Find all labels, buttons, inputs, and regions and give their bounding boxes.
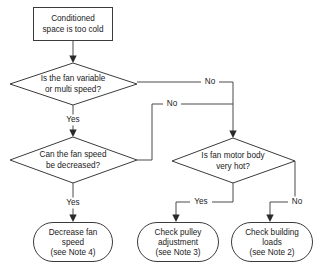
node-start-line-1: Conditioned: [51, 14, 95, 23]
node-start[interactable]: Conditioned space is too cold: [34, 8, 113, 41]
edge-label-text: Yes: [66, 198, 79, 207]
flowchart-svg: Conditioned space is too cold Is the fan…: [0, 0, 324, 274]
edge-label-fan-speed-yes: Yes: [62, 198, 84, 209]
node-terminal-decrease-fan-speed[interactable]: Decrease fan speed (see Note 4): [34, 223, 113, 262]
node-terminal-check-building-loads[interactable]: Check building loads (see Note 2): [232, 223, 313, 262]
decision-diamond-shape: [172, 138, 295, 183]
arrowhead-icon: [69, 215, 76, 223]
node-check-building-loads-line-1: Check building: [245, 228, 299, 237]
node-decrease-fan-speed-line-2: speed: [62, 238, 85, 247]
edge-line: [270, 161, 295, 217]
node-decrease-fan-speed-line-1: Decrease fan: [49, 228, 98, 237]
decision-diamond-shape: [10, 137, 137, 183]
node-decision-motor-hot[interactable]: Is fan motor body very hot?: [172, 138, 295, 183]
node-decision-motor-hot-line-2: very hot?: [216, 162, 250, 171]
edge-label-text: No: [292, 197, 303, 206]
arrowhead-icon: [266, 215, 273, 223]
flowchart-canvas: Conditioned space is too cold Is the fan…: [0, 0, 324, 274]
node-decision-fan-variable[interactable]: Is the fan variable or multi speed?: [10, 63, 137, 105]
edge-label-text: Yes: [194, 197, 207, 206]
node-decision-motor-hot-line-1: Is fan motor body: [201, 151, 265, 160]
arrowhead-icon: [69, 130, 76, 138]
node-check-building-loads-line-2: loads: [262, 238, 282, 247]
edge-label-fan-speed-no: No: [163, 99, 181, 110]
arrowhead-icon: [172, 215, 179, 223]
node-decision-fan-speed-line-1: Can the fan speed: [40, 150, 107, 159]
edge-label-motor-hot-yes: Yes: [190, 197, 212, 208]
edge-label-text: Yes: [66, 115, 79, 124]
edge-start-to-fan-variable: [69, 41, 76, 64]
node-decision-fan-variable-line-2: or multi speed?: [45, 85, 101, 94]
node-decrease-fan-speed-line-3: (see Note 4): [50, 248, 95, 257]
node-decision-fan-speed-line-2: be decreased?: [46, 161, 101, 170]
arrowhead-icon: [69, 56, 76, 64]
edge-label-fan-variable-yes: Yes: [62, 115, 84, 126]
node-check-building-loads-line-3: (see Note 2): [249, 248, 294, 257]
edge-label-text: No: [205, 77, 216, 86]
edge-line: [137, 82, 233, 133]
node-start-line-2: space is too cold: [43, 25, 104, 34]
node-decision-fan-speed-decrease[interactable]: Can the fan speed be decreased?: [10, 137, 137, 183]
node-check-pulley-line-1: Check pulley: [155, 228, 203, 237]
edge-label-motor-hot-no: No: [288, 197, 306, 208]
node-check-pulley-line-3: (see Note 3): [155, 248, 200, 257]
edge-label-fan-variable-no: No: [201, 77, 219, 88]
node-check-pulley-line-2: adjustment: [158, 238, 199, 247]
node-terminal-check-pulley[interactable]: Check pulley adjustment (see Note 3): [138, 223, 219, 262]
decision-diamond-shape: [10, 63, 137, 105]
arrowhead-icon: [229, 131, 236, 139]
node-decision-fan-variable-line-1: Is the fan variable: [41, 74, 106, 83]
edge-label-text: No: [167, 99, 178, 108]
